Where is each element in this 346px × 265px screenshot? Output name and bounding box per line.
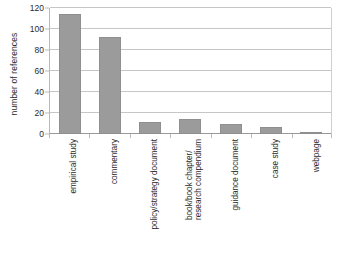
x-axis-tick-label: guidance document [231,139,240,210]
x-axis-tick-label: webpage [312,139,321,172]
x-axis-tick-mark [89,134,129,138]
bar-slot [291,8,331,134]
x-axis-tick-label-line: webpage [312,139,321,172]
bar-slot [50,8,90,134]
x-axis-tick-label-line: guidance document [231,139,240,210]
y-axis-tick-label: 100 [22,25,44,34]
x-axis-tick-label-line: case study [271,139,280,178]
y-axis-title: number of references [6,10,22,138]
x-axis-label-cell: case study [251,139,291,261]
x-axis-label-cell: policy/strategy document [130,139,170,261]
plot-area [49,8,332,134]
x-axis-tick-mark [292,134,332,138]
x-axis-tick-mark [211,134,251,138]
y-axis-tick-labels: 020406080100120 [22,8,44,134]
x-axis-tick-label: case study [271,139,280,178]
bar-slot [211,8,251,134]
bar [99,37,121,134]
x-axis-tick-mark [251,134,291,138]
x-axis-tick-labels: empirical studycommentarypolicy/strategy… [49,139,332,261]
x-axis-label-cell: webpage [292,139,332,261]
bars-container [50,8,331,134]
y-axis-tick-label: 120 [22,4,44,13]
x-axis-tick-mark [170,134,210,138]
x-axis-label-cell: book/book chapter/research compendium [170,139,210,261]
x-axis-label-cell: commentary [89,139,129,261]
bar-slot [130,8,170,134]
bar [220,124,242,135]
x-axis-tick-label-line: research compendium [195,139,204,220]
x-axis-tick-label: policy/strategy document [150,139,159,230]
x-axis-label-cell: empirical study [49,139,89,261]
x-axis-tick-label-line: policy/strategy document [150,139,159,230]
x-axis-tick-label-line: book/book chapter/ [185,150,194,220]
x-axis-tick-label-line: commentary [110,139,119,184]
bar [179,119,201,134]
y-axis-tick-label: 80 [22,46,44,55]
y-axis-tick-label: 60 [22,67,44,76]
y-axis-tick-label: 0 [22,130,44,139]
y-axis-tick-label: 40 [22,88,44,97]
y-axis-tick-label: 20 [22,109,44,118]
bar-slot [90,8,130,134]
bar-slot [170,8,210,134]
x-axis-tick-label: empirical study [69,139,78,194]
x-axis-tick-label: book/book chapter/research compendium [185,139,203,220]
bar-chart-figure: number of references 020406080100120 emp… [0,0,346,265]
x-axis-tick-label-line: empirical study [69,139,78,194]
x-axis-tick-marks [49,134,332,138]
x-axis-tick-label: commentary [110,139,119,184]
bar [59,14,81,134]
x-axis-label-cell: guidance document [211,139,251,261]
x-axis-tick-mark [49,134,89,138]
bar [260,127,282,134]
bar [139,122,161,134]
x-axis-tick-mark [130,134,170,138]
y-axis-title-text: number of references [9,33,19,116]
bar-slot [251,8,291,134]
